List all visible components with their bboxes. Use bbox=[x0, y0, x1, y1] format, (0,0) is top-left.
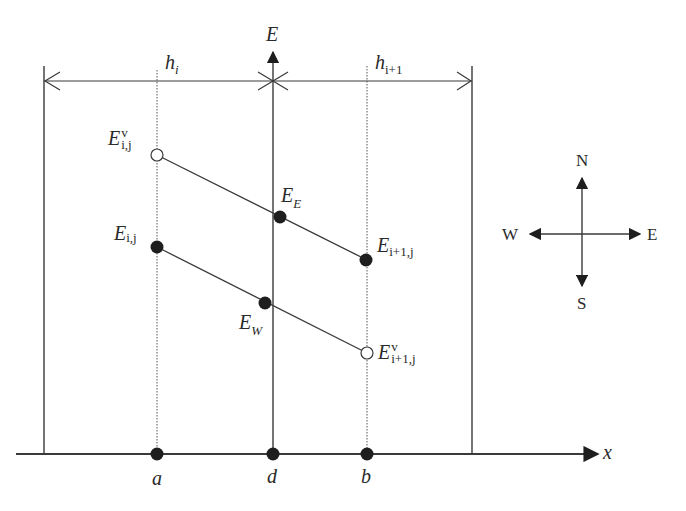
axis-point-d-marker bbox=[267, 448, 280, 461]
label-e-ij: Ei,j bbox=[114, 223, 137, 243]
hi-subscript: i bbox=[175, 62, 179, 77]
ev-ij-symbol: E bbox=[108, 127, 120, 149]
label-e-i1j: Ei+1,j bbox=[377, 235, 414, 255]
upper-interpolation-line bbox=[157, 155, 367, 260]
label-ev-i1j: Evi+1,j bbox=[378, 342, 415, 367]
hi-label: hi bbox=[165, 52, 179, 72]
hi1-subscript: i+1 bbox=[385, 62, 402, 77]
compass-south-label: S bbox=[577, 295, 586, 312]
e-i1j-subscript: i+1,j bbox=[389, 244, 413, 259]
axis-point-d-label: d bbox=[267, 466, 277, 486]
hi1-label: hi+1 bbox=[375, 52, 402, 72]
hi1-symbol: h bbox=[375, 51, 385, 73]
node-ev-ij bbox=[151, 149, 163, 161]
e-i1j-symbol: E bbox=[377, 234, 389, 256]
node-e-i1j bbox=[360, 254, 373, 267]
compass-rose bbox=[530, 178, 640, 286]
node-e-ij bbox=[151, 241, 164, 254]
ev-i1j-symbol: E bbox=[378, 341, 390, 363]
grid-schematic bbox=[0, 0, 686, 511]
compass-west-label: W bbox=[502, 226, 518, 243]
e-east-symbol: E bbox=[281, 184, 293, 206]
axis-point-a-marker bbox=[151, 448, 164, 461]
label-e-west: EW bbox=[239, 312, 262, 332]
e-ij-subscript: i,j bbox=[126, 230, 136, 245]
e-axis-label: E bbox=[266, 24, 278, 44]
ev-i1j-subscript: i+1,j bbox=[391, 352, 415, 365]
axis-point-b-label: b bbox=[361, 466, 371, 486]
e-west-symbol: E bbox=[239, 311, 251, 333]
e-ij-symbol: E bbox=[114, 222, 126, 244]
node-e-west bbox=[259, 297, 272, 310]
ev-ij-subscript: i,j bbox=[121, 138, 131, 151]
hi-symbol: h bbox=[165, 51, 175, 73]
node-ev-i1j bbox=[361, 347, 373, 359]
axis-point-a-label: a bbox=[152, 468, 162, 488]
axis-point-b-marker bbox=[361, 448, 374, 461]
compass-east-label: E bbox=[647, 226, 657, 243]
e-west-subscript: W bbox=[251, 323, 262, 338]
node-e-east bbox=[274, 211, 287, 224]
label-e-east: EE bbox=[281, 185, 301, 205]
x-axis-label: x bbox=[603, 442, 612, 462]
e-east-subscript: E bbox=[293, 196, 301, 211]
compass-north-label: N bbox=[576, 152, 588, 169]
label-ev-ij: Evi,j bbox=[108, 128, 131, 153]
